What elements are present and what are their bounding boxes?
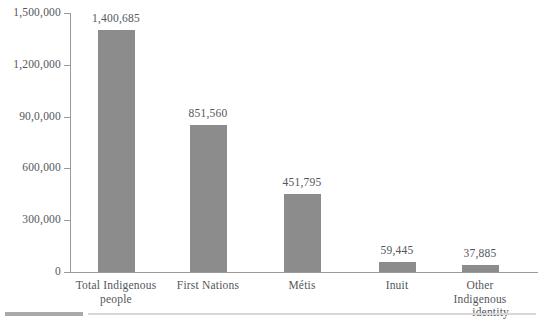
footer-rule-accent: [5, 312, 83, 316]
bar: [379, 262, 416, 272]
bar-value-label: 37,885: [464, 248, 497, 260]
y-axis-tick-labels: 0300,000600,00090,0,0001,200,0001,500,00…: [0, 0, 61, 322]
bar: [284, 194, 321, 272]
category-label-line: Métis: [288, 279, 315, 291]
y-axis-tick-label: 1,500,000: [13, 7, 61, 19]
category-label-line: Other Indigenous: [453, 279, 506, 305]
y-axis-tick-label: 600,000: [22, 162, 61, 174]
y-axis-tick-label: 90,0,000: [19, 111, 61, 123]
category-label-line: people: [76, 293, 157, 307]
bars-layer: [70, 13, 538, 272]
y-axis-tick-label: 0: [55, 266, 61, 278]
bar-chart-figure: 0300,000600,00090,0,0001,200,0001,500,00…: [0, 0, 544, 322]
bar-value-label: 851,560: [189, 108, 228, 120]
x-axis-category-label: Total Indigenouspeople: [76, 279, 157, 306]
x-axis-category-label: First Nations: [177, 279, 239, 293]
bar-value-label: 451,795: [283, 177, 322, 189]
y-axis-tick-label: 300,000: [22, 214, 61, 226]
category-label-line: First Nations: [177, 279, 239, 291]
x-axis-category-label: Inuit: [386, 279, 409, 293]
y-axis-tick-label: 1,200,000: [13, 59, 61, 71]
bar: [462, 265, 499, 272]
bar-value-label: 59,445: [381, 245, 414, 257]
x-axis-category-labels: Total IndigenouspeopleFirst NationsMétis…: [70, 279, 538, 315]
category-label-line: Total Indigenous: [76, 279, 157, 291]
bar: [98, 30, 135, 272]
bar-value-label: 1,400,685: [92, 13, 140, 25]
category-label-line: Inuit: [386, 279, 409, 291]
x-axis-category-label: Métis: [288, 279, 315, 293]
footer-rule: [88, 313, 536, 315]
bar: [190, 125, 227, 272]
x-axis-line: [70, 272, 538, 273]
